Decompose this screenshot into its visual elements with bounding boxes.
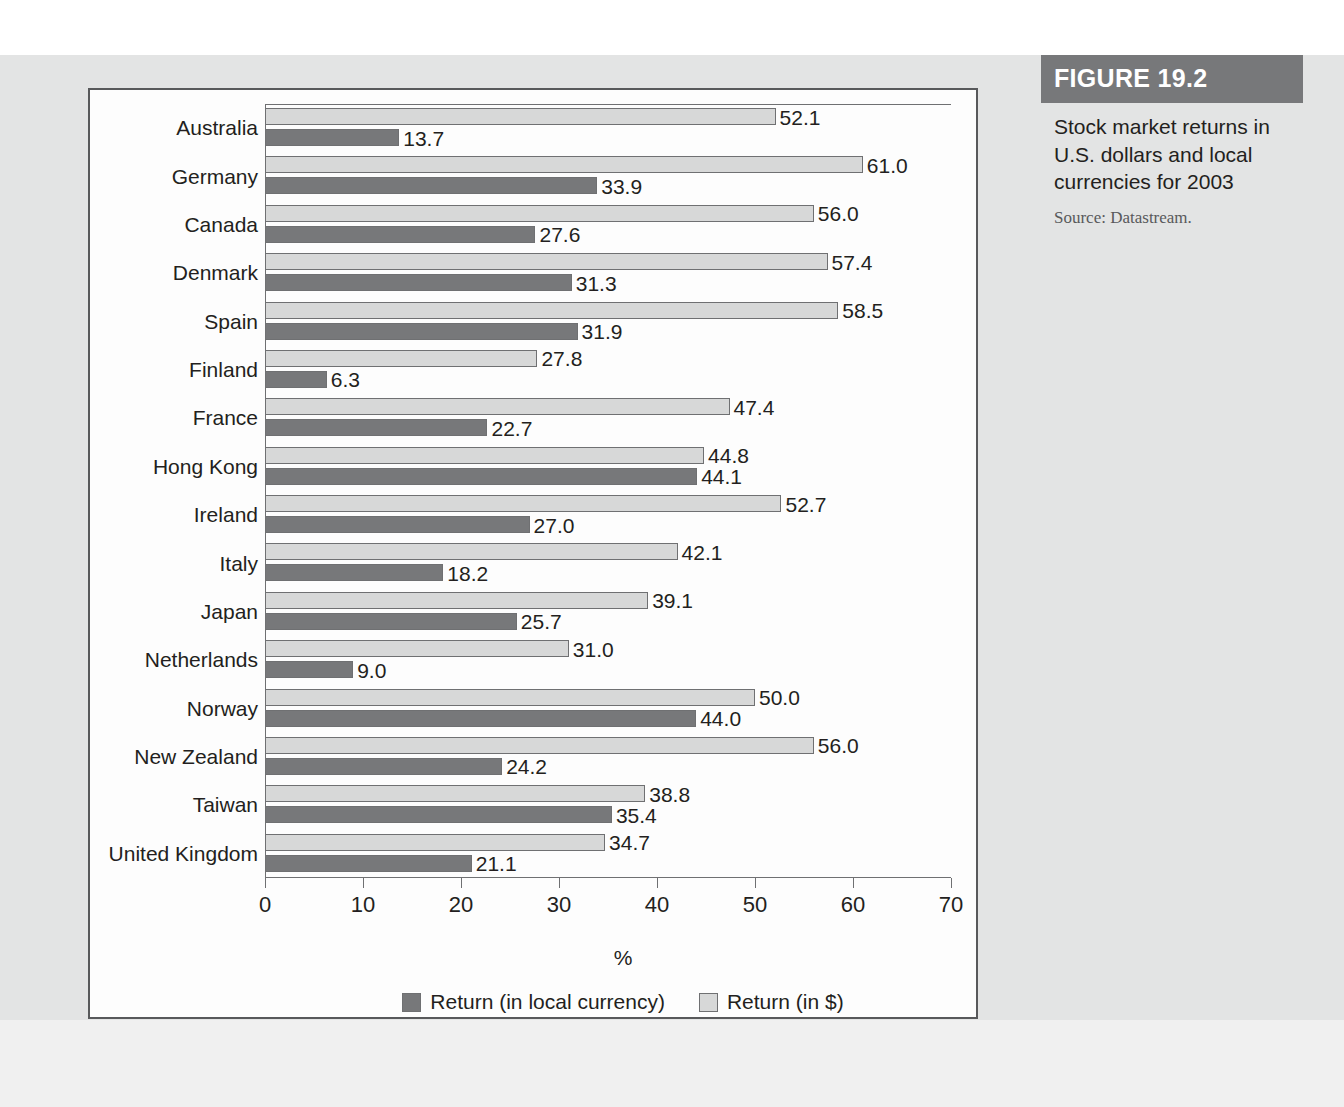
bar-return-local: 21.1 (265, 855, 472, 872)
bar-row: Taiwan38.835.4 (265, 781, 951, 829)
bar-value-local: 9.0 (357, 659, 386, 680)
bar-return-usd: 42.1 (265, 543, 678, 560)
bar-row: Germany61.033.9 (265, 152, 951, 200)
bar-value-local: 31.9 (582, 321, 623, 342)
category-label: Netherlands (145, 648, 258, 672)
bar-row: Denmark57.431.3 (265, 249, 951, 297)
bar-return-usd: 39.1 (265, 592, 648, 609)
bar-return-local: 44.0 (265, 710, 696, 727)
bar-return-local: 13.7 (265, 129, 399, 146)
bar-row: Canada56.027.6 (265, 201, 951, 249)
bar-return-usd: 52.7 (265, 495, 781, 512)
bar-return-local: 24.2 (265, 758, 502, 775)
bar-value-usd: 38.8 (649, 783, 690, 804)
category-label: Australia (176, 116, 258, 140)
bar-value-local: 33.9 (601, 175, 642, 196)
bar-row: Japan39.125.7 (265, 588, 951, 636)
bar-value-local: 44.1 (701, 466, 742, 487)
bar-return-usd: 47.4 (265, 398, 730, 415)
bar-value-usd: 57.4 (832, 251, 873, 272)
bar-return-usd: 61.0 (265, 156, 863, 173)
bar-return-local: 22.7 (265, 419, 487, 436)
page-root: Australia52.113.7Germany61.033.9Canada56… (0, 0, 1344, 1107)
bar-return-local: 27.6 (265, 226, 535, 243)
category-label: Denmark (173, 261, 258, 285)
bar-return-usd: 50.0 (265, 689, 755, 706)
bar-return-usd: 56.0 (265, 737, 814, 754)
bar-value-usd: 34.7 (609, 832, 650, 853)
bar-return-usd: 44.8 (265, 447, 704, 464)
bar-value-usd: 42.1 (682, 541, 723, 562)
category-label: Hong Kong (153, 455, 258, 479)
category-label: Japan (201, 600, 258, 624)
bar-row: Australia52.113.7 (265, 104, 951, 152)
bar-return-local: 18.2 (265, 564, 443, 581)
x-axis-tick (559, 878, 560, 888)
bar-row: Italy42.118.2 (265, 539, 951, 587)
chart-legend: Return (in local currency)Return (in $) (178, 990, 1068, 1014)
x-axis-tick-label: 20 (449, 892, 473, 918)
bar-return-local: 31.3 (265, 274, 572, 291)
bar-value-usd: 44.8 (708, 445, 749, 466)
bar-return-local: 35.4 (265, 806, 612, 823)
bar-value-usd: 61.0 (867, 154, 908, 175)
bar-return-usd: 56.0 (265, 205, 814, 222)
bar-value-local: 6.3 (331, 369, 360, 390)
x-axis-tick (951, 878, 952, 888)
legend-item: Return (in local currency) (402, 990, 665, 1014)
bar-return-local: 25.7 (265, 613, 517, 630)
bar-row: Hong Kong44.844.1 (265, 443, 951, 491)
bar-value-local: 35.4 (616, 804, 657, 825)
bar-value-usd: 39.1 (652, 590, 693, 611)
x-axis-tick-label: 50 (743, 892, 767, 918)
legend-item: Return (in $) (699, 990, 844, 1014)
category-label: France (193, 406, 258, 430)
bar-value-usd: 47.4 (734, 396, 775, 417)
bar-value-usd: 56.0 (818, 203, 859, 224)
figure-caption-text: Stock market returns in U.S. dollars and… (1041, 103, 1303, 196)
figure-source-text: Source: Datastream. (1041, 196, 1303, 228)
category-label: Canada (184, 213, 258, 237)
x-axis-tick (657, 878, 658, 888)
legend-label: Return (in $) (727, 990, 844, 1014)
category-label: Ireland (194, 503, 258, 527)
bar-return-usd: 27.8 (265, 350, 537, 367)
x-axis-tick-label: 60 (841, 892, 865, 918)
bar-row: Netherlands31.09.0 (265, 636, 951, 684)
x-axis: 010203040506070 (265, 878, 951, 918)
bar-value-local: 31.3 (576, 272, 617, 293)
bar-value-usd: 50.0 (759, 687, 800, 708)
bar-value-local: 22.7 (491, 417, 532, 438)
bar-rows: Australia52.113.7Germany61.033.9Canada56… (265, 104, 951, 878)
bar-row: Ireland52.727.0 (265, 491, 951, 539)
x-axis-tick (363, 878, 364, 888)
category-label: Italy (219, 552, 258, 576)
x-axis-tick-label: 40 (645, 892, 669, 918)
x-axis-tick (265, 878, 266, 888)
bar-return-local: 27.0 (265, 516, 530, 533)
bar-return-usd: 31.0 (265, 640, 569, 657)
category-label: Taiwan (193, 793, 258, 817)
bar-value-local: 44.0 (700, 708, 741, 729)
bar-value-usd: 52.1 (780, 106, 821, 127)
bar-return-usd: 57.4 (265, 253, 828, 270)
bar-row: Spain58.531.9 (265, 298, 951, 346)
bar-value-usd: 58.5 (842, 300, 883, 321)
bar-value-local: 27.0 (534, 514, 575, 535)
bar-return-local: 6.3 (265, 371, 327, 388)
bar-return-usd: 38.8 (265, 785, 645, 802)
x-axis-tick (461, 878, 462, 888)
bar-value-usd: 52.7 (785, 493, 826, 514)
legend-label: Return (in local currency) (430, 990, 665, 1014)
legend-swatch (402, 993, 421, 1012)
legend-swatch (699, 993, 718, 1012)
bar-value-usd: 31.0 (573, 638, 614, 659)
bar-value-usd: 56.0 (818, 735, 859, 756)
x-axis-tick (755, 878, 756, 888)
x-axis-title: % (178, 946, 1068, 970)
bar-row: France47.422.7 (265, 394, 951, 442)
figure-number-label: FIGURE 19.2 (1054, 64, 1207, 92)
bar-return-local: 31.9 (265, 323, 578, 340)
category-label: Norway (187, 697, 258, 721)
figure-callout: FIGURE 19.2 Stock market returns in U.S.… (1041, 55, 1303, 228)
